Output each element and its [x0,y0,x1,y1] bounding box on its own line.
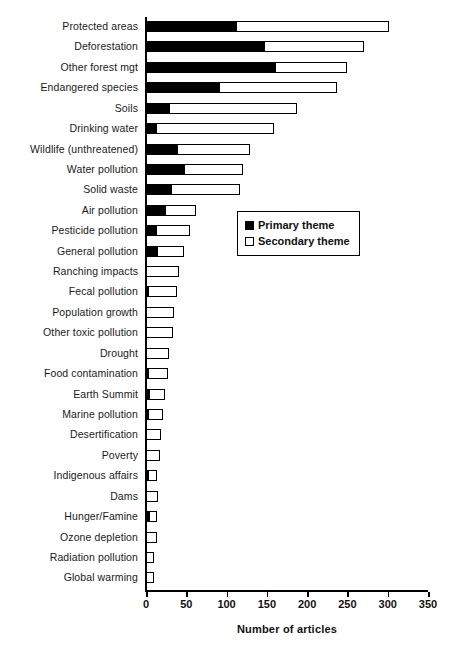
bar-segment-primary [146,225,156,236]
bar-segment-primary [146,286,148,297]
stacked-bar [146,572,154,583]
bar-segment-secondary [146,266,179,277]
bar-segment-primary [146,246,157,257]
bar-segment-primary [146,41,264,52]
category-label: Hunger/Famine [0,511,138,522]
stacked-bar [146,409,163,420]
legend-label-secondary: Secondary theme [258,235,350,247]
bar-segment-primary [146,82,219,93]
bar-segment-primary [146,144,177,155]
stacked-bar [146,205,196,216]
stacked-bar [146,164,243,175]
x-tick [307,592,309,597]
stacked-bar [146,144,250,155]
bar-segment-primary [146,184,171,195]
stacked-bar [146,246,184,257]
category-label: Global warming [0,572,138,583]
x-tick [428,592,430,597]
x-tick [347,592,349,597]
x-tick-label: 0 [126,598,166,610]
x-tick-label: 100 [207,598,247,610]
bar-segment-secondary [149,511,157,522]
x-tick [186,592,188,597]
category-label: Pesticide pollution [0,225,138,236]
stacked-bar [146,491,158,502]
category-label: Other forest mgt [0,62,138,73]
x-tick-label: 200 [287,598,327,610]
stacked-bar [146,286,177,297]
bar-segment-secondary [165,205,196,216]
legend-item-secondary: Secondary theme [245,233,350,249]
stacked-bar [146,62,347,73]
bar-segment-secondary [149,389,164,400]
stacked-bar [146,103,297,114]
x-tick [146,592,148,597]
bar-segment-secondary [264,41,365,52]
stacked-bar [146,389,165,400]
x-tick-label: 350 [408,598,448,610]
legend-swatch-secondary-icon [245,237,254,246]
bar-segment-secondary [156,123,274,134]
category-label: Deforestation [0,41,138,52]
stacked-bar [146,184,240,195]
x-axis-title: Number of articles [146,623,428,635]
stacked-bar [146,470,157,481]
category-label: Population growth [0,307,138,318]
stacked-bar [146,123,274,134]
category-label: Earth Summit [0,389,138,400]
category-label: Protected areas [0,21,138,32]
bar-segment-secondary [169,103,297,114]
bar-segment-secondary [177,144,250,155]
stacked-bar [146,327,173,338]
bar-segment-secondary [146,450,160,461]
stacked-bar [146,21,389,32]
bar-segment-secondary [148,470,158,481]
category-label: Wildlife (unthreatened) [0,144,138,155]
bar-segment-secondary [236,21,389,32]
stacked-bar [146,82,337,93]
bar-segment-secondary [146,532,157,543]
bar-segment-secondary [148,409,163,420]
x-tick-label: 150 [247,598,287,610]
category-label: Dams [0,491,138,502]
bar-segment-secondary [146,491,158,502]
x-tick [267,592,269,597]
category-label: Drinking water [0,123,138,134]
bar-segment-primary [146,389,149,400]
bar-segment-primary [146,164,184,175]
bar-segment-secondary [156,225,189,236]
bar-segment-secondary [146,348,169,359]
category-label: Endangered species [0,82,138,93]
bar-segment-secondary [146,552,154,563]
x-tick [227,592,229,597]
category-label: Air pollution [0,205,138,216]
stacked-bar [146,450,160,461]
legend-swatch-primary-icon [245,221,254,230]
bar-segment-primary [146,205,165,216]
x-tick-label: 50 [166,598,206,610]
stacked-bar [146,511,157,522]
bar-segment-secondary [275,62,348,73]
category-label: Soils [0,103,138,114]
x-tick-label: 300 [368,598,408,610]
bar-segment-primary [146,123,156,134]
bar-segment-secondary [148,286,177,297]
category-label: Marine pollution [0,409,138,420]
bar-segment-secondary [146,307,174,318]
category-label: Desertification [0,429,138,440]
bar-segment-primary [146,21,236,32]
bar-segment-secondary [146,572,154,583]
category-label: Solid waste [0,184,138,195]
bar-segment-primary [146,470,148,481]
bar-segment-secondary [146,429,161,440]
category-label: Fecal pollution [0,286,138,297]
stacked-bar [146,552,154,563]
x-tick [388,592,390,597]
stacked-bar [146,429,161,440]
legend-item-primary: Primary theme [245,217,350,233]
stacked-bar [146,532,157,543]
category-label: Indigenous affairs [0,470,138,481]
category-label: Ranching impacts [0,266,138,277]
category-label: Other toxic pollution [0,327,138,338]
stacked-bar [146,225,190,236]
